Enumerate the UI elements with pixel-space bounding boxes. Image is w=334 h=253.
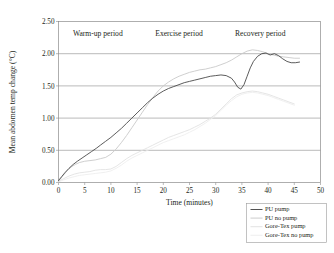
y-tick-label: 0.00 [42, 179, 55, 187]
x-axis-ticks: 05101520253035404550 [57, 183, 325, 196]
plot-frame [59, 22, 321, 183]
period-label: Recovery period [235, 29, 286, 38]
legend-label: PU no pump [265, 214, 297, 221]
legend-label: Gore-Tex pump [265, 222, 306, 229]
y-tick-label: 2.00 [42, 50, 55, 58]
y-axis-ticks: 0.000.501.001.502.002.50 [42, 18, 59, 187]
x-tick-label: 40 [265, 187, 273, 195]
y-tick-label: 0.50 [42, 147, 55, 155]
y-tick-label: 1.50 [42, 83, 55, 91]
x-tick-label: 15 [134, 187, 142, 195]
y-tick-label: 2.50 [42, 18, 55, 26]
x-axis-title: Time (minutes) [166, 198, 213, 207]
gridlines-group [59, 54, 321, 151]
y-axis-title: Mean abdomen temp change (°C) [8, 50, 17, 153]
chart-figure: 05101520253035404550 0.000.501.001.502.0… [0, 0, 334, 253]
x-tick-label: 30 [212, 187, 220, 195]
x-tick-label: 50 [317, 187, 325, 195]
x-tick-label: 20 [160, 187, 168, 195]
period-label: Warm-up period [73, 29, 123, 38]
period-annotations: Warm-up periodExercise periodRecovery pe… [73, 29, 286, 38]
y-tick-label: 1.00 [42, 115, 55, 123]
period-label: Exercise period [155, 29, 203, 38]
legend-label: PU pump [265, 205, 289, 212]
series-line-pu-no-pump [59, 50, 300, 181]
temperature-line-chart: 05101520253035404550 0.000.501.001.502.0… [0, 0, 334, 253]
series-line-gore-tex-no-pump [59, 92, 295, 182]
series-line-gore-tex-pump [59, 91, 295, 181]
x-tick-label: 35 [238, 187, 246, 195]
data-series-group [59, 50, 300, 182]
x-tick-label: 10 [107, 187, 115, 195]
x-tick-label: 25 [186, 187, 194, 195]
x-tick-label: 0 [57, 187, 61, 195]
series-line-pu-pump [59, 53, 300, 181]
chart-legend: PU pumpPU no pumpGore-Tex pumpGore-Tex n… [247, 204, 327, 243]
x-tick-label: 5 [83, 187, 87, 195]
legend-label: Gore-Tex no pump [265, 231, 314, 238]
x-tick-label: 45 [291, 187, 299, 195]
